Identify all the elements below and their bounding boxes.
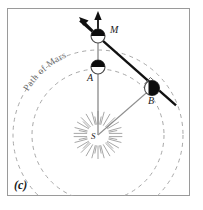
marker-earth bbox=[145, 81, 160, 96]
orbit-diagram-svg: Path of Mars Path of earth M A B S (c) bbox=[0, 0, 203, 210]
figure-panel-c: Path of Mars Path of earth M A B S (c) bbox=[0, 0, 203, 210]
label-path-of-earth: Path of earth bbox=[69, 200, 122, 210]
label-earth: B bbox=[148, 95, 154, 106]
label-mars-now: M bbox=[109, 24, 119, 35]
label-mars-earlier: A bbox=[86, 72, 94, 83]
label-path-of-earth-text: Path of earth bbox=[69, 200, 122, 210]
label-sun: S bbox=[91, 131, 96, 141]
panel-label: (c) bbox=[14, 178, 27, 192]
marker-mars-now bbox=[91, 29, 105, 43]
